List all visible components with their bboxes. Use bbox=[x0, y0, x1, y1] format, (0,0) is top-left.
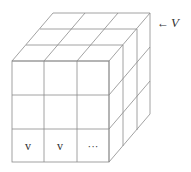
pointer-annotation: ← V bbox=[157, 15, 181, 30]
cell-label-v-2: v bbox=[57, 139, 63, 153]
cell-label-ellipsis: ··· bbox=[88, 140, 99, 152]
left-arrow-icon: ← bbox=[157, 16, 169, 30]
cell-label-v-1: v bbox=[25, 139, 31, 153]
cube-diagram: v v ··· ← V bbox=[0, 0, 191, 172]
pointer-label: V bbox=[171, 15, 181, 30]
right-face-grid bbox=[109, 13, 150, 162]
cell-labels: v v ··· bbox=[25, 139, 99, 153]
top-face-grid bbox=[12, 13, 150, 61]
